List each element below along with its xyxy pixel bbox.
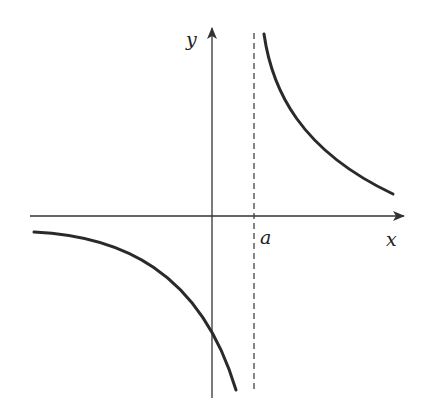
hyperbola-diagram: y a x — [0, 0, 431, 408]
left-branch-curve — [34, 232, 236, 390]
right-branch-curve — [264, 34, 393, 194]
x-axis-label: x — [386, 228, 397, 250]
asymptote-label: a — [260, 226, 271, 248]
y-axis-label: y — [185, 28, 197, 50]
